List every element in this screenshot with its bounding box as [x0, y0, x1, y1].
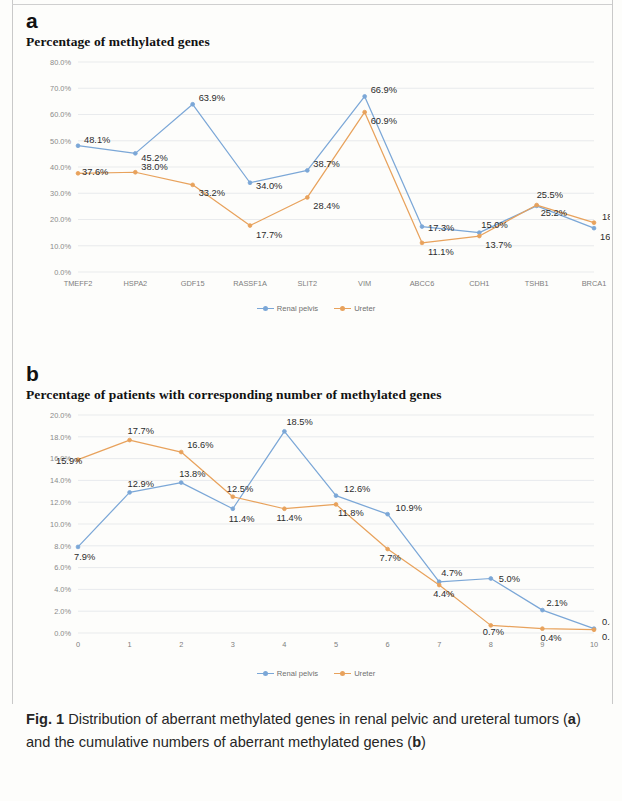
data-label: 25.2% [541, 208, 567, 218]
x-tick-label: 7 [437, 640, 441, 649]
legend-label-renal-pelvis: Renal pelvis [277, 669, 318, 678]
series-polyline [78, 440, 594, 630]
y-tick-label: 10.0% [50, 520, 71, 529]
data-label: 0.3% [602, 632, 610, 642]
data-point [541, 608, 545, 612]
x-tick-label: BRCA1 [582, 279, 607, 288]
chart-a-legend: Renal pelvis Ureter [22, 304, 610, 313]
data-label: 0.7% [483, 627, 504, 637]
data-point [283, 429, 287, 433]
legend-item-renal-pelvis: Renal pelvis [257, 669, 318, 678]
data-point [420, 241, 424, 245]
y-tick-label: 40.0% [50, 163, 71, 172]
legend-label-ureter: Ureter [354, 669, 375, 678]
data-point [477, 234, 481, 238]
y-tick-label: 0.0% [54, 629, 71, 638]
data-label: 15.9% [56, 456, 82, 466]
x-tick-label: 5 [334, 640, 338, 649]
data-point [133, 151, 137, 155]
gridlines [78, 415, 594, 633]
data-label: 16.6% [187, 440, 213, 450]
data-label: 34.0% [256, 181, 282, 191]
data-point [592, 226, 596, 230]
data-point [305, 169, 309, 173]
data-label: 12.6% [344, 484, 370, 494]
x-axis-ticks: TMEFF2HSPA2GDF15RASSF1ASLIT2VIMABCC6CDH1… [64, 279, 607, 288]
legend-label-renal-pelvis: Renal pelvis [277, 304, 318, 313]
data-label: 16.7% [600, 232, 610, 242]
x-tick-label: 3 [231, 640, 235, 649]
data-point [231, 495, 235, 499]
y-tick-label: 30.0% [50, 189, 71, 198]
data-point [76, 545, 80, 549]
x-tick-label: RASSF1A [233, 279, 267, 288]
data-point [179, 450, 183, 454]
x-tick-label: TSHB1 [525, 279, 549, 288]
data-label: 15.0% [481, 220, 507, 230]
data-label: 12.5% [227, 484, 253, 494]
legend-swatch-ureter [334, 305, 351, 313]
panel-a-letter: a [26, 10, 610, 32]
data-point [133, 170, 137, 174]
y-tick-label: 14.0% [50, 476, 71, 485]
data-point [179, 481, 183, 485]
data-point [191, 102, 195, 106]
data-label: 0.4% [602, 617, 610, 627]
y-tick-label: 70.0% [50, 84, 71, 93]
data-label: 11.8% [338, 508, 364, 518]
legend-swatch-renal-pelvis [257, 305, 274, 313]
series-ureter [76, 438, 596, 631]
data-point [76, 171, 80, 175]
data-label: 17.3% [428, 223, 454, 233]
data-point [437, 583, 441, 587]
chart-b-svg: 0.0%2.0%4.0%6.0%8.0%10.0%12.0%14.0%16.0%… [22, 405, 610, 667]
x-tick-label: 6 [386, 640, 390, 649]
figure-page: a Percentage of methylated genes 0.0%10.… [0, 0, 622, 801]
data-point [334, 502, 338, 506]
x-tick-label: ABCC6 [410, 279, 435, 288]
legend-swatch-ureter [334, 670, 351, 678]
x-tick-label: 0 [76, 640, 80, 649]
data-point [128, 490, 132, 494]
panel-a-title: Percentage of methylated genes [26, 34, 610, 50]
y-tick-label: 2.0% [54, 607, 71, 616]
caption-text-1: Distribution of aberrant methylated gene… [64, 711, 568, 727]
figure-caption: Fig. 1 Distribution of aberrant methylat… [26, 708, 596, 754]
data-label: 17.7% [128, 426, 154, 436]
series-polyline [78, 431, 594, 628]
chart-a-container: 0.0%10.0%20.0%30.0%40.0%50.0%60.0%70.0%8… [22, 52, 610, 324]
page-edge-left [12, 0, 13, 704]
data-point [76, 144, 80, 148]
data-label: 10.9% [396, 503, 422, 513]
data-label: 38.7% [313, 159, 339, 169]
data-point [592, 628, 596, 632]
data-point [191, 183, 195, 187]
data-label: 48.1% [84, 135, 110, 145]
data-label: 4.4% [433, 589, 454, 599]
x-tick-label: CDH1 [469, 279, 489, 288]
data-point [334, 494, 338, 498]
data-label: 5.0% [499, 574, 520, 584]
panel-a: a Percentage of methylated genes 0.0%10.… [22, 10, 610, 324]
y-tick-label: 10.0% [50, 242, 71, 251]
x-tick-label: 4 [282, 640, 286, 649]
series-ureter [76, 110, 596, 245]
y-tick-label: 50.0% [50, 137, 71, 146]
data-labels-renal-pelvis: 7.9%12.9%13.8%11.4%18.5%12.6%10.9%4.7%5.… [74, 417, 610, 626]
data-label: 38.0% [141, 162, 167, 172]
legend-label-ureter: Ureter [354, 304, 375, 313]
data-label: 28.4% [313, 201, 339, 211]
x-tick-label: 8 [489, 640, 493, 649]
y-axis-ticks: 0.0%2.0%4.0%6.0%8.0%10.0%12.0%14.0%16.0%… [50, 411, 71, 638]
caption-text-3: ) [421, 734, 426, 750]
data-label: 11.1% [428, 247, 454, 257]
chart-b-container: 0.0%2.0%4.0%6.0%8.0%10.0%12.0%14.0%16.0%… [22, 405, 610, 690]
series-renal-pelvis [76, 429, 596, 630]
data-label: 66.9% [371, 85, 397, 95]
data-point [489, 577, 493, 581]
x-tick-label: HSPA2 [123, 279, 147, 288]
data-point [248, 181, 252, 185]
x-tick-label: VIM [358, 279, 371, 288]
y-tick-label: 20.0% [50, 411, 71, 420]
data-label: 17.7% [256, 230, 282, 240]
